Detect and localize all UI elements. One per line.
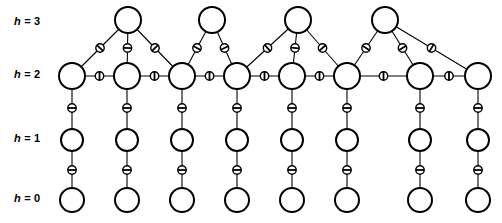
node-h2-1 <box>114 63 140 89</box>
node-h0-7 <box>466 188 490 212</box>
row-label-h0-equals: = <box>24 192 31 204</box>
row-label-h1-value: 1 <box>34 132 40 144</box>
edge-marker-h2-chain-4 <box>315 72 323 80</box>
edge-marker-h3-h2-3 <box>193 44 201 52</box>
edge-marker-h3-h2-8 <box>362 44 370 52</box>
row-label-h2: h = 2 <box>14 68 40 80</box>
node-h1-1 <box>116 129 138 151</box>
node-h2-5 <box>334 63 360 89</box>
node-h2-3 <box>224 63 250 89</box>
edge-marker-h3-h2-7 <box>318 44 326 52</box>
node-h2-0 <box>59 63 85 89</box>
edge-marker-h3-h2-5 <box>263 44 271 52</box>
edge-marker-h1-h0-2 <box>178 166 186 174</box>
edge-marker-h2-h1-1 <box>123 104 131 112</box>
edge-marker-h3-h2-10 <box>427 44 435 52</box>
node-h0-4 <box>280 188 304 212</box>
row-label-h1: h = 1 <box>14 132 40 144</box>
row-label-h3-value: 3 <box>34 15 40 27</box>
row-label-h3-equals: = <box>24 15 31 27</box>
node-h3-3 <box>372 7 398 33</box>
edge-marker-h2-h1-6 <box>416 104 424 112</box>
edge-marker-h3-h2-0 <box>96 44 104 52</box>
lattice-graph <box>0 0 502 223</box>
row-label-h3-variable: h <box>14 15 21 27</box>
edge-marker-h1-h0-7 <box>474 166 482 174</box>
edge-marker-h2-chain-0 <box>95 72 103 80</box>
node-h2-6 <box>407 63 433 89</box>
edge-marker-h2-h1-4 <box>288 104 296 112</box>
edge-marker-h1-h0-1 <box>123 166 131 174</box>
row-label-h0: h = 0 <box>14 192 40 204</box>
edge-marker-h3-h2-6 <box>291 44 299 52</box>
row-label-h1-equals: = <box>24 132 31 144</box>
node-h3-2 <box>285 7 311 33</box>
edge-marker-h2-h1-5 <box>343 104 351 112</box>
edge-marker-h1-h0-0 <box>68 166 76 174</box>
edge-marker-h3-h2-4 <box>220 44 228 52</box>
edge-marker-h3-h2-2 <box>151 44 159 52</box>
edge-marker-h2-h1-7 <box>474 104 482 112</box>
row-label-h3: h = 3 <box>14 15 40 27</box>
node-h2-4 <box>279 63 305 89</box>
node-h2-2 <box>169 63 195 89</box>
row-label-h0-value: 0 <box>34 192 40 204</box>
edge-marker-h1-h0-5 <box>343 166 351 174</box>
row-label-h1-variable: h <box>14 132 21 144</box>
node-h0-0 <box>60 188 84 212</box>
edge-marker-h2-h1-2 <box>178 104 186 112</box>
edge-marker-h1-h0-6 <box>416 166 424 174</box>
node-h3-0 <box>115 7 141 33</box>
node-h1-2 <box>171 129 193 151</box>
edge-marker-h2-chain-2 <box>205 72 213 80</box>
edge-marker-h1-h0-3 <box>233 166 241 174</box>
node-h0-6 <box>408 188 432 212</box>
node-h2-7 <box>465 63 491 89</box>
node-h0-5 <box>335 188 359 212</box>
edge-marker-h1-h0-4 <box>288 166 296 174</box>
row-label-h2-variable: h <box>14 68 21 80</box>
node-h1-4 <box>281 129 303 151</box>
row-label-h2-equals: = <box>24 68 31 80</box>
node-h1-7 <box>467 129 489 151</box>
edge-marker-h2-chain-6 <box>445 72 453 80</box>
edge-marker-h2-chain-1 <box>150 72 158 80</box>
node-h0-2 <box>170 188 194 212</box>
row-label-h2-value: 2 <box>34 68 40 80</box>
node-h0-1 <box>115 188 139 212</box>
row-label-h0-variable: h <box>14 192 21 204</box>
node-h1-0 <box>61 129 83 151</box>
edge-marker-h2-h1-3 <box>233 104 241 112</box>
node-h0-3 <box>225 188 249 212</box>
node-h3-1 <box>199 7 225 33</box>
edge-marker-h2-chain-5 <box>379 72 387 80</box>
node-h1-3 <box>226 129 248 151</box>
node-h1-5 <box>336 129 358 151</box>
edge-marker-h3-h2-9 <box>398 44 406 52</box>
node-h1-6 <box>409 129 431 151</box>
diagram-canvas: h = 3 h = 2 h = 1 h = 0 <box>0 0 502 223</box>
edge-marker-h2-chain-3 <box>260 72 268 80</box>
edge-marker-h3-h2-1 <box>123 44 131 52</box>
edge-marker-h2-h1-0 <box>68 104 76 112</box>
